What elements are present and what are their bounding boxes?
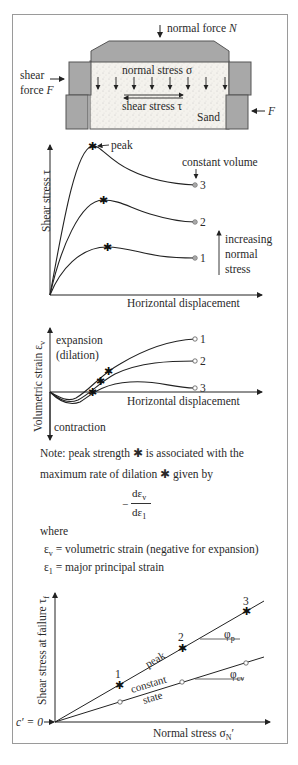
- point-label-2: 2: [178, 631, 184, 644]
- origin-label: c′ = 0: [16, 716, 43, 729]
- peak-line-label: peak: [143, 649, 167, 670]
- cs-point-1: [118, 700, 122, 704]
- chart3-ylabel: Shear stress at failure τf: [36, 596, 51, 705]
- cs-point-2: [180, 680, 184, 684]
- cs-point-3: [244, 661, 248, 665]
- point-label-1: 1: [115, 668, 121, 681]
- phi-p-label: φp: [224, 628, 235, 645]
- point-label-3: 3: [243, 595, 249, 608]
- phi-cv-label: φcv: [230, 668, 244, 685]
- chart3-xlabel: Normal stress σN′: [153, 727, 234, 744]
